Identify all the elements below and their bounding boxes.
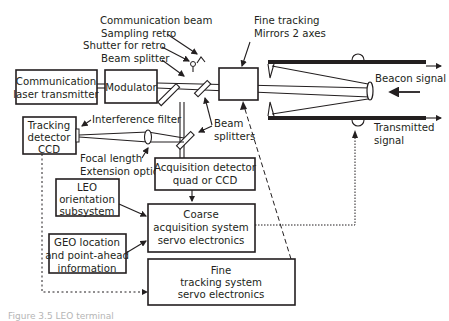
comm-beam-line-lower xyxy=(157,88,370,97)
lower-gimbal-icon xyxy=(352,120,364,126)
fine-tracking-label-1: Fine tracking xyxy=(254,15,320,26)
tracking-detector-label-2: detector xyxy=(27,132,71,143)
beam-splitters-arrow-left xyxy=(199,126,212,132)
comm-laser-transmitter-box: Communication laser transmitter xyxy=(13,70,99,104)
interference-filter xyxy=(76,129,79,142)
comm-beam-line-upper xyxy=(157,83,370,88)
gimbal-arrowhead xyxy=(352,130,358,138)
focal-length-arrow xyxy=(142,148,148,158)
interference-filter-arrow xyxy=(82,120,91,126)
secondary-mirror xyxy=(367,82,373,100)
comm-laser-label-2: laser transmitter xyxy=(13,89,99,100)
leo-orientation-box: LEO orientation subsystem xyxy=(56,179,119,217)
beacon-signal-label: Beacon signal xyxy=(375,73,446,84)
shutter-icon xyxy=(191,62,196,67)
fine-tracking-label-2: Mirrors 2 axes xyxy=(254,28,326,39)
acquisition-detector-label-1: Acquisition detector xyxy=(154,162,257,173)
modulator-label: Modulator xyxy=(105,82,157,93)
beam-splitters-arrow-up xyxy=(205,98,212,125)
focal-length-label-1: Focal length xyxy=(80,153,142,164)
beam-splitter-2 xyxy=(195,81,211,97)
geo-location-box: GEO location and point-ahead information xyxy=(45,234,129,274)
figure-caption: Figure 3.5 LEO terminal xyxy=(8,311,114,321)
geo-location-label-2: and point-ahead xyxy=(45,250,129,261)
fine-servo-label-2: tracking system xyxy=(180,277,262,288)
coarse-to-gimbal-dotted-line xyxy=(255,136,355,225)
upper-gimbal-icon xyxy=(352,54,364,60)
focal-length-label-2: Extension optics xyxy=(80,166,164,177)
beam-splitters-label-2: splitters xyxy=(214,131,255,142)
transmitted-label-1: Transmitted xyxy=(373,122,434,133)
leo-orientation-label-2: orientation xyxy=(59,194,115,205)
tracking-beam-upper xyxy=(79,132,148,135)
coarse-label-2: acquisition system xyxy=(153,222,248,233)
retro-reflector-icon xyxy=(197,57,205,63)
fine-servo-label-3: servo electronics xyxy=(178,289,265,300)
coarse-label-3: servo electronics xyxy=(158,235,245,246)
beam-splitter-label: Beam splitter xyxy=(101,53,170,64)
geo-location-label-3: information xyxy=(58,263,117,274)
tracking-detector-box: Tracking detector CCD xyxy=(23,117,76,155)
transmitted-label-2: signal xyxy=(374,135,404,146)
sampling-retro-arrow xyxy=(167,34,197,54)
comm-laser-label-1: Communication xyxy=(16,76,96,87)
beam-splitter-3 xyxy=(177,132,195,150)
telescope xyxy=(268,54,441,126)
acquisition-detector-box: Acquisition detector quad or CCD xyxy=(154,158,257,190)
fine-tracking-arrow xyxy=(242,42,250,66)
tracking-detector-label-1: Tracking xyxy=(27,120,70,131)
extension-optics-lens xyxy=(145,130,152,144)
communication-beam-label: Communication beam xyxy=(100,15,213,26)
sampling-retro-label: Sampling retro xyxy=(101,28,176,39)
tracking-beam-lower xyxy=(79,137,148,142)
fine-tracking-servo-box: Fine tracking system servo electronics xyxy=(148,259,295,305)
coarse-label-1: Coarse xyxy=(183,209,218,220)
shutter-retro-label: Shutter for retro xyxy=(83,40,166,51)
coarse-acquisition-box: Coarse acquisition system servo electron… xyxy=(148,204,255,252)
leo-orientation-label-1: LEO xyxy=(77,182,97,193)
tracking-detector-label-3: CCD xyxy=(38,144,60,155)
leo-to-coarse-arrow xyxy=(119,204,146,216)
fine-servo-label-1: Fine xyxy=(211,265,232,276)
beam-splitter-arrow xyxy=(162,60,184,76)
geo-to-coarse-arrow xyxy=(126,241,146,253)
interference-filter-label: Interference filter xyxy=(92,114,182,125)
leo-orientation-label-3: subsystem xyxy=(59,206,114,217)
geo-location-label-1: GEO location xyxy=(54,237,120,248)
acquisition-detector-label-2: quad or CCD xyxy=(173,175,238,186)
beam-splitters-label-1: Beam xyxy=(214,118,243,129)
fine-tracking-mirror-box xyxy=(219,68,258,100)
beam-splitter-1 xyxy=(158,84,180,106)
modulator-box: Modulator xyxy=(105,70,158,103)
